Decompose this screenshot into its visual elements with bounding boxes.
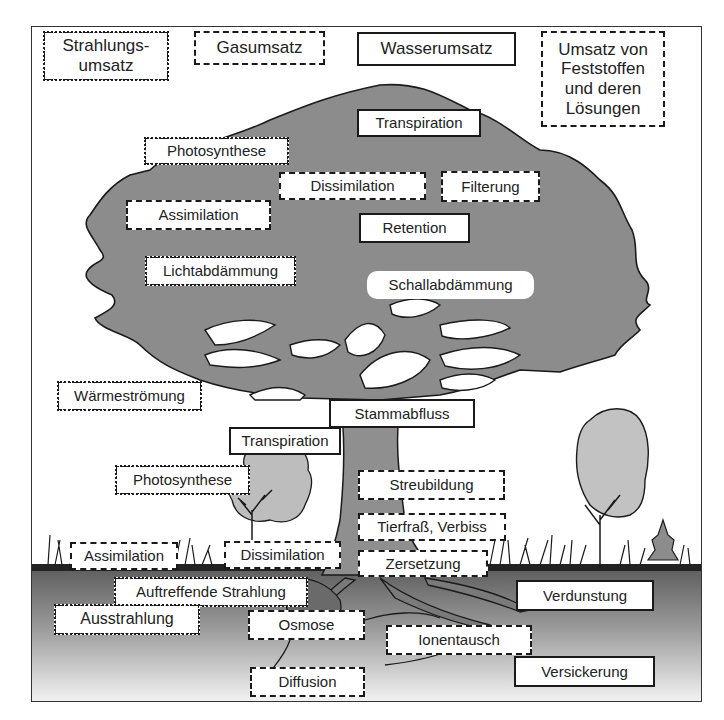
label-dissimilation-canopy: Dissimilation [279,172,426,200]
label-transpiration-small-tree: Transpiration [229,427,341,455]
label-lichtabdaemmung: Lichtabdämmung [145,256,296,286]
label-auftreffende-strahlung: Auftreffende Strahlung [114,577,308,607]
label-tierfrass-verbiss: Tierfraß, Verbiss [358,513,506,541]
legend-solids: Umsatz von Feststoffen und deren Lösunge… [541,31,665,127]
label-stammabfluss: Stammabfluss [329,399,475,428]
label-zersetzung: Zersetzung [358,550,488,577]
label-streubildung: Streubildung [358,470,505,500]
label-waermestroemung: Wärmeströmung [57,381,202,411]
label-ausstrahlung: Ausstrahlung [54,604,200,635]
label-retention: Retention [359,213,470,243]
label-osmose: Osmose [248,610,365,640]
label-assimilation-ground: Assimilation [70,542,178,570]
small-conifer [648,520,678,560]
label-ionentausch: Ionentausch [386,625,532,655]
legend-gas: Gasumsatz [194,31,325,65]
label-filterung: Filterung [441,171,540,202]
label-diffusion: Diffusion [250,667,365,697]
label-dissimilation-ground: Dissimilation [224,541,341,569]
label-schallabdaemmung: Schallabdämmung [367,271,534,299]
legend-radiation: Strahlungs- umsatz [43,31,169,81]
label-transpiration-canopy: Transpiration [357,109,481,137]
label-photosynthese-canopy: Photosynthese [144,137,289,165]
label-verdunstung: Verdunstung [516,580,654,611]
label-versickerung: Versickerung [514,656,655,687]
label-assimilation-canopy: Assimilation [126,200,271,230]
label-photosynthese-small-tree: Photosynthese [115,465,250,495]
small-tree-right [577,409,649,517]
legend-water: Wasserumsatz [357,32,516,66]
